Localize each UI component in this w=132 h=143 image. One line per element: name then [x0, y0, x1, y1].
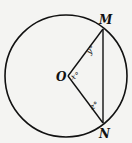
circle-diagram: M N O x° y° z° [0, 0, 132, 143]
angle-label-z: z° [88, 100, 100, 112]
point-label-m: M [98, 13, 113, 27]
point-label-n: N [98, 127, 111, 141]
point-label-o: O [56, 70, 67, 84]
angle-label-x: x° [70, 71, 81, 82]
radius-on [68, 76, 103, 123]
angle-label-y: y° [84, 44, 97, 57]
